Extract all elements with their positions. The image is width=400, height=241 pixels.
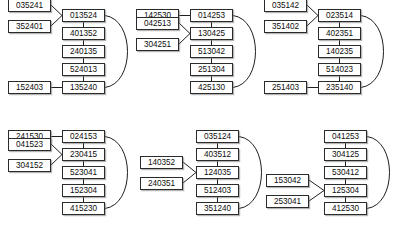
branch-node: 153042 <box>266 174 309 187</box>
main-node: 230415 <box>62 148 105 161</box>
back-edge <box>367 137 390 209</box>
main-node: 514023 <box>318 63 361 76</box>
main-node: 530412 <box>324 166 367 179</box>
main-node: 235140 <box>318 81 361 94</box>
tail-fork-edge-lower <box>179 34 190 45</box>
main-node: 041253 <box>324 130 367 143</box>
main-node: 351240 <box>196 202 239 215</box>
branch-fork-edge-lower <box>51 16 62 27</box>
main-node: 140235 <box>318 45 361 58</box>
tail-fork-edge-lower <box>51 155 62 166</box>
main-node: 512403 <box>196 184 239 197</box>
main-node: 524013 <box>62 63 105 76</box>
branch-node: 240351 <box>140 177 183 190</box>
branch-node: 352401 <box>8 20 51 33</box>
main-node: 240135 <box>62 45 105 58</box>
branch-fork-edge-upper <box>307 5 318 16</box>
branch-fork-edge-lower <box>183 173 196 184</box>
main-node: 412530 <box>324 202 367 215</box>
branch-node: 351402 <box>264 20 307 33</box>
main-node: 130425 <box>190 27 233 40</box>
branch-fork-edge-lower <box>307 16 318 27</box>
main-node: 402351 <box>318 27 361 40</box>
main-node: 013524 <box>62 9 105 22</box>
main-node: 304125 <box>324 148 367 161</box>
main-node: 403512 <box>196 148 239 161</box>
branch-fork-edge-lower <box>309 191 324 202</box>
back-edge <box>233 16 256 88</box>
branch-fork-edge-upper <box>51 5 62 16</box>
tail-fork-edge-upper <box>179 23 190 34</box>
tail-node: 042513 <box>136 17 179 30</box>
main-node: 425130 <box>190 81 233 94</box>
main-node: 135240 <box>62 81 105 94</box>
main-node: 401352 <box>62 27 105 40</box>
main-node: 035124 <box>196 130 239 143</box>
tail-fork-edge-upper <box>51 144 62 155</box>
tail-node: 304152 <box>8 159 51 172</box>
main-node: 024153 <box>62 130 105 143</box>
main-node: 023514 <box>318 9 361 22</box>
back-edge <box>105 16 128 88</box>
back-edge <box>105 137 128 209</box>
branch-node: 140352 <box>140 156 183 169</box>
main-node: 125304 <box>324 184 367 197</box>
main-node: 513042 <box>190 45 233 58</box>
branch-node: 253041 <box>266 195 309 208</box>
tail-node: 041523 <box>8 138 51 151</box>
branch-fork-edge-upper <box>183 162 196 173</box>
tail-node: 304251 <box>136 38 179 51</box>
back-edge <box>239 137 262 209</box>
back-edge <box>361 16 384 88</box>
tail-node: 251403 <box>264 81 307 94</box>
main-node: 523041 <box>62 166 105 179</box>
main-node: 152304 <box>62 184 105 197</box>
tail-node: 152403 <box>8 81 51 94</box>
branch-node: 035241 <box>8 0 51 12</box>
main-node: 251304 <box>190 63 233 76</box>
main-node: 415230 <box>62 202 105 215</box>
branch-fork-edge-upper <box>309 180 324 191</box>
main-node: 014253 <box>190 9 233 22</box>
permutation-graph-figure: 0352413524011524030135244013522401355240… <box>0 0 400 241</box>
main-node: 124035 <box>196 166 239 179</box>
branch-node: 035142 <box>264 0 307 12</box>
